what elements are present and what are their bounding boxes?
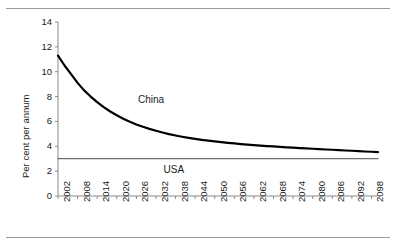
x-tick-label: 2038 [180,181,190,202]
x-tick-label: 2098 [375,181,385,202]
x-tick-label: 2074 [297,181,307,202]
y-tick-label: 0 [30,191,52,201]
series-label-usa: USA [164,164,185,175]
chart-figure: Per cent per annum 02468101214 200220082… [0,0,396,246]
x-tick-label: 2026 [140,181,150,202]
x-tick-label: 2080 [317,181,327,202]
x-tick-label: 2056 [238,181,248,202]
x-tick-label: 2044 [199,181,209,202]
x-tick-label: 2032 [160,181,170,202]
x-tick-label: 2008 [82,181,92,202]
y-tick-label: 14 [30,17,52,27]
y-tick-label: 6 [30,117,52,127]
x-tick-label: 2086 [336,181,346,202]
y-tick-label: 4 [30,142,52,152]
x-tick-label: 2050 [219,181,229,202]
plot-area [0,0,396,246]
x-tick-label: 2020 [121,181,131,202]
x-tick-label: 2014 [101,181,111,202]
y-tick-label: 12 [30,42,52,52]
x-tick-label: 2062 [258,181,268,202]
x-tick-label: 2002 [62,181,72,202]
series-label-china: China [138,94,164,105]
y-tick-label: 10 [30,67,52,77]
y-tick-label: 8 [30,92,52,102]
series-line-china [58,56,378,153]
x-tick-label: 2092 [356,181,366,202]
y-tick-label: 2 [30,166,52,176]
data-series-group [58,56,378,159]
x-tick-label: 2068 [278,181,288,202]
